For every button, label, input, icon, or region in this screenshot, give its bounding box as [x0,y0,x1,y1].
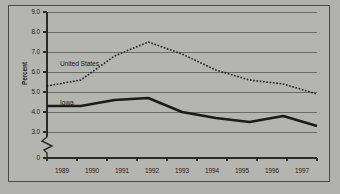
y-tick-label-0: 0 [18,154,40,161]
series-label-iowa: Iowa [60,99,74,106]
y-tick-label-8: 8.0 [18,28,40,35]
x-tick-label-1993: 1993 [167,167,197,175]
y-tick-label-3: 3.0 [18,128,40,135]
chart-figure: 9.0 8.0 7.0 6.0 5.0 4.0 3.0 0 Percent 19… [0,0,340,194]
x-tick-label-1989: 1989 [47,167,77,175]
y-tick-label-9: 9.0 [18,8,40,15]
x-tick-label-1995: 1995 [227,167,257,175]
series-label-united-states: United States [60,60,99,67]
y-tick-label-4: 4.0 [18,108,40,115]
x-tick-label-1991: 1991 [107,167,137,175]
x-tick-label-1996: 1996 [257,167,287,175]
x-axis [47,158,317,161]
x-tick-label-1994: 1994 [197,167,227,175]
series-line-united-states [47,42,317,94]
x-tick-label-1997: 1997 [287,167,317,175]
gridlines [47,12,317,132]
x-tick-label-1990: 1990 [77,167,107,175]
y-axis-title: Percent [21,44,28,104]
x-tick-label-1992: 1992 [137,167,167,175]
chart-canvas [0,0,340,194]
